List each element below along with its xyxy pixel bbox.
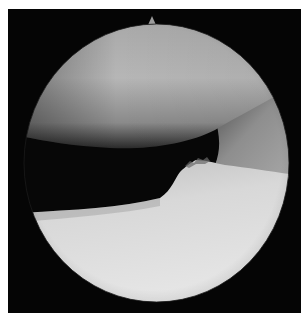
arthroscopy-image (0, 0, 308, 318)
arthroscopy-svg (0, 0, 308, 318)
